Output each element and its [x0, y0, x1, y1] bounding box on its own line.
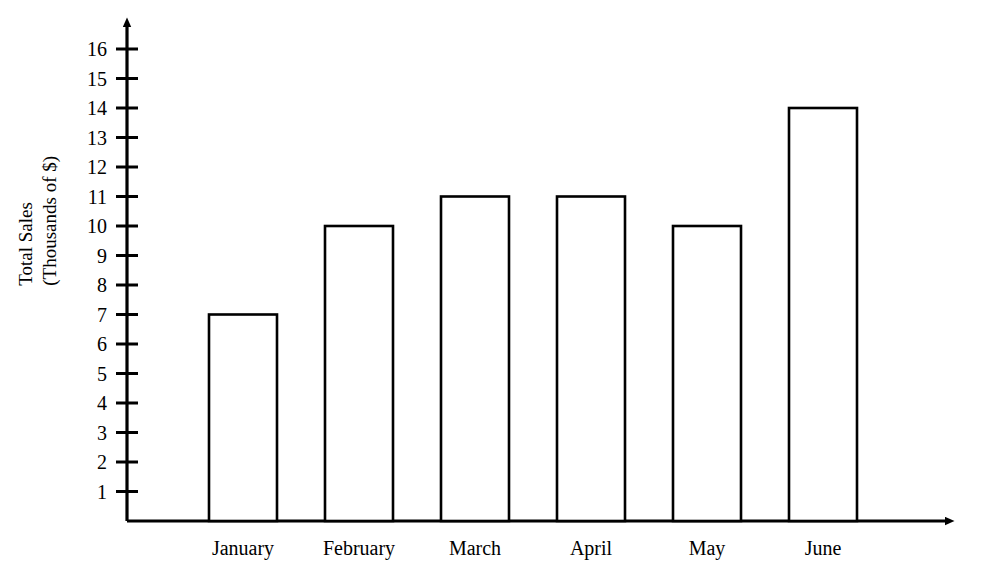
bars-group: [209, 108, 857, 521]
y-axis-tick-label: 4: [67, 393, 107, 413]
y-axis-tick-label: 6: [67, 334, 107, 354]
bar: [325, 226, 393, 521]
bar-chart: Total Sales (Thousands of $) 12345678910…: [0, 0, 981, 581]
bar: [441, 197, 509, 522]
y-axis-title-line-1: Total Sales: [14, 226, 38, 286]
x-axis-category-label: January: [185, 538, 301, 558]
x-axis-category-label: June: [765, 538, 881, 558]
bar: [673, 226, 741, 521]
bar: [209, 315, 277, 522]
x-axis-category-label: February: [301, 538, 417, 558]
y-axis-tick-label: 8: [67, 275, 107, 295]
y-axis-tick-label: 10: [67, 216, 107, 236]
x-axis-category-label: April: [533, 538, 649, 558]
y-axis-tick-label: 11: [67, 187, 107, 207]
bar: [557, 197, 625, 522]
y-axis-tick-label: 5: [67, 364, 107, 384]
y-axis-tick-label: 12: [67, 157, 107, 177]
y-axis-tick-label: 14: [67, 98, 107, 118]
y-axis-tick-label: 13: [67, 128, 107, 148]
x-axis-category-label: March: [417, 538, 533, 558]
bar: [789, 108, 857, 521]
y-axis-tick-label: 3: [67, 423, 107, 443]
y-axis-tick-label: 16: [67, 39, 107, 59]
y-axis-tick-label: 7: [67, 305, 107, 325]
y-axis-tick-label: 15: [67, 69, 107, 89]
chart-plot-area: [0, 0, 981, 581]
y-axis-title-line-2: (Thousands of $): [38, 226, 62, 286]
y-axis-tick-label: 9: [67, 246, 107, 266]
y-axis-tick-label: 1: [67, 482, 107, 502]
x-axis-category-label: May: [649, 538, 765, 558]
y-axis-tick-label: 2: [67, 452, 107, 472]
y-axis-title: Total Sales (Thousands of $): [14, 226, 62, 286]
